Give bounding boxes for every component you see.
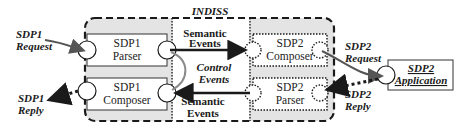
sdp2-composer-input-port xyxy=(245,42,261,58)
sdp1-parser-box: SDP1 Parser xyxy=(78,34,176,66)
sdp1-composer-box: SDP1 Composer xyxy=(78,78,176,110)
sdp1-composer-line2: Composer xyxy=(103,94,150,107)
sdp2-parser-input-port xyxy=(312,85,328,101)
sdp1-request-label-line1: SDP1 xyxy=(16,28,42,40)
sdp1-parser-line1: SDP1 xyxy=(114,37,141,49)
semantic-events-top-line2: Events xyxy=(189,37,222,49)
sdp1-reply-arrow xyxy=(52,91,78,99)
semantic-events-bottom-line1: Semantic xyxy=(181,95,225,107)
sdp2-application-line2: Application xyxy=(394,74,448,86)
sdp2-request-label-line2: Request xyxy=(344,52,382,64)
sdp2-reply-label-line2: Reply xyxy=(344,100,371,112)
sdp1-composer-line1: SDP1 xyxy=(114,81,141,93)
sdp1-reply-label-line2: Reply xyxy=(17,104,44,116)
sdp2-parser-line1: SDP2 xyxy=(277,81,304,93)
semantic-events-bottom-line2: Events xyxy=(187,107,220,119)
sdp1-reply-label-line1: SDP1 xyxy=(18,92,44,104)
sdp1-composer-output-port xyxy=(78,82,96,100)
indiss-diagram: INDISS SDP1 Parser SDP1 Composer SDP2 Co… xyxy=(0,0,469,130)
sdp2-composer-output-port xyxy=(312,42,328,58)
sdp1-parser-line2: Parser xyxy=(113,50,142,62)
sdp2-reply-label-line1: SDP2 xyxy=(345,88,372,100)
sdp2-request-label-line1: SDP2 xyxy=(345,40,372,52)
sdp2-composer-box: SDP2 Composer xyxy=(245,34,328,66)
sdp2-application-line1: SDP2 xyxy=(408,62,435,74)
sdp1-request-label-line2: Request xyxy=(15,40,53,52)
sdp2-composer-line1: SDP2 xyxy=(277,37,304,49)
sdp1-composer-input-port xyxy=(158,84,176,102)
sdp2-parser-line2: Parser xyxy=(276,94,305,106)
sdp2-parser-box: SDP2 Parser xyxy=(245,78,328,110)
control-events-line2: Events xyxy=(198,73,230,85)
indiss-title: INDISS xyxy=(191,5,229,17)
sdp2-application-box: SDP2 Application xyxy=(377,60,453,90)
sdp2-composer-line2: Composer xyxy=(266,50,313,63)
control-events-line1: Control xyxy=(197,61,233,73)
